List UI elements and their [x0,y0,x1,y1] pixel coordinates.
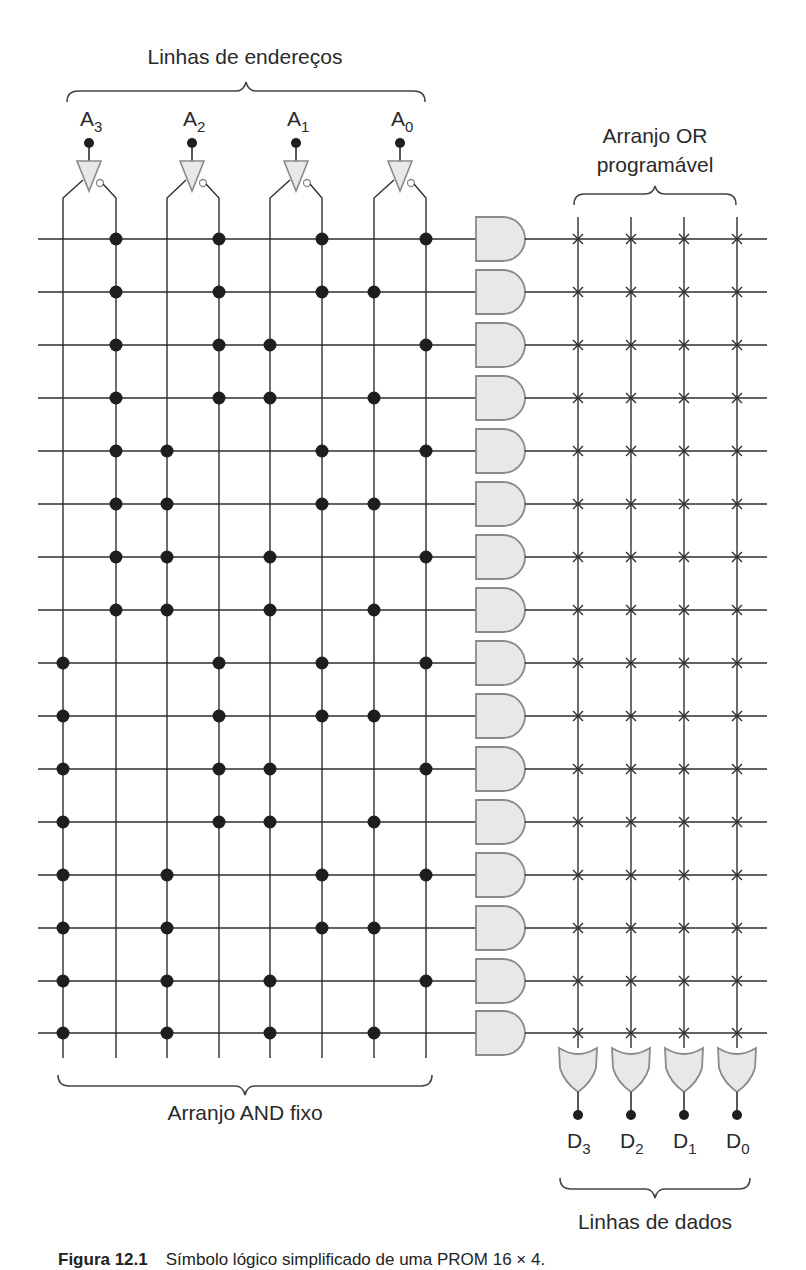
input-terminal-dot [84,138,94,148]
inverter-bubble [408,180,415,187]
fixed-connection-dot [420,233,433,246]
or-gate [559,1048,597,1092]
fixed-connection-dot [213,339,226,352]
fixed-connection-dot [420,445,433,458]
fixed-connection-dot [213,710,226,723]
fixed-connection-dot [161,445,174,458]
output-label-d0: D0 [726,1129,750,1157]
output-label-d1: D1 [673,1129,697,1157]
fixed-connection-dot [316,445,329,458]
input-label-a3: A3 [80,107,102,135]
fixed-connection-dot [110,286,123,299]
input-label-a0: A0 [391,107,413,135]
and-array-label: Arranjo AND fixo [167,1101,322,1124]
and-gates [476,217,767,1055]
fixed-connection-dot [368,604,381,617]
fixed-connection-dot [57,1027,70,1040]
figure-caption: Figura 12.1Símbolo lógico simplificado d… [58,1250,545,1270]
inverter-bubble [200,180,207,187]
and-gate [476,588,525,632]
or-array-label-line1: Arranjo OR [602,124,707,147]
fixed-connection-dot [264,1027,277,1040]
fixed-connection-dot [420,869,433,882]
output-label-d2: D2 [620,1129,644,1157]
input-terminal-dot [291,138,301,148]
fixed-connection-dot [161,922,174,935]
fixed-connection-dot [161,975,174,988]
buffer-inverter-triangle [388,161,412,191]
fixed-connection-dot [368,710,381,723]
fixed-connection-dot [57,816,70,829]
fixed-connection-dot [57,922,70,935]
and-gate [476,959,525,1003]
fixed-connection-dot [368,392,381,405]
caption-text: Símbolo lógico simplificado de uma PROM … [166,1250,545,1269]
fixed-connection-dot [110,339,123,352]
fixed-connection-dot [213,286,226,299]
true-line [270,180,290,1058]
fixed-connection-dot [57,657,70,670]
fixed-connection-dot [213,657,226,670]
buffer-inverter-triangle [180,161,204,191]
fixed-connection-dot [264,763,277,776]
complement-line [414,184,426,1058]
output-terminal-dot [626,1110,636,1120]
fixed-connection-dot [213,392,226,405]
fixed-connection-dot [264,339,277,352]
inverter-bubble [97,180,104,187]
and-gate [476,747,525,791]
fixed-connection-dot [316,657,329,670]
data-outputs: D3D2D1D0 [559,1048,756,1157]
fixed-connection-dot [316,710,329,723]
fixed-connection-dot [368,1027,381,1040]
and-gate [476,482,525,526]
complement-line [103,184,116,1058]
input-label-a1: A1 [287,107,309,135]
address-inputs: A3A2A1A0 [63,107,426,1058]
and-gate [476,1011,525,1055]
fixed-connection-dot [57,975,70,988]
or-array-brace [574,186,736,205]
fixed-connection-dot [161,551,174,564]
fixed-connection-dot [110,445,123,458]
and-gate [476,323,525,367]
fixed-connection-dot [213,816,226,829]
fixed-connection-dot [161,1027,174,1040]
complement-line [206,184,219,1058]
fixed-connection-dot [420,657,433,670]
and-gate [476,800,525,844]
fixed-connection-dot [368,286,381,299]
fixed-connection-dot [368,816,381,829]
fixed-connection-dot [316,498,329,511]
fixed-connection-dot [368,922,381,935]
data-lines-label: Linhas de dados [578,1210,732,1233]
or-array-grid [573,217,742,1048]
fixed-connection-dot [316,233,329,246]
fixed-connection-dot [316,922,329,935]
fixed-connection-dot [264,551,277,564]
and-gate [476,853,525,897]
or-gate [718,1048,756,1092]
and-gate [476,535,525,579]
inverter-bubble [304,180,311,187]
fixed-connection-dot [57,869,70,882]
and-gate [476,376,525,420]
fixed-connection-dot [316,869,329,882]
output-label-d3: D3 [567,1129,591,1157]
fixed-connection-dot [316,286,329,299]
fixed-connection-dot [420,339,433,352]
data-lines-brace [560,1178,750,1198]
and-gate [476,270,525,314]
and-gate [476,906,525,950]
fixed-connection-dot [110,604,123,617]
and-array-grid [38,233,476,1040]
fixed-connection-dot [420,763,433,776]
or-gate [612,1048,650,1092]
fixed-connection-dot [420,551,433,564]
fixed-connection-dot [213,763,226,776]
fixed-connection-dot [57,763,70,776]
and-gate [476,217,525,261]
fixed-connection-dot [264,975,277,988]
fixed-connection-dot [110,551,123,564]
